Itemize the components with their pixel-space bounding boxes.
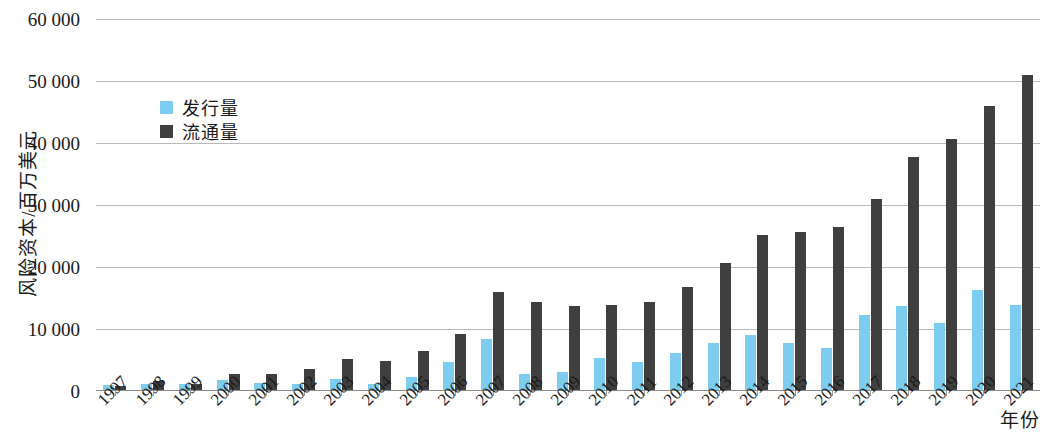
bar-group: [323, 19, 361, 391]
x-axis-label-cell: 2011: [625, 392, 663, 437]
bar-group: [511, 19, 549, 391]
bar-group: [738, 19, 776, 391]
x-axis-label-cell: 2016: [814, 392, 852, 437]
x-axis-label-cell: 1998: [134, 392, 172, 437]
bar-group: [587, 19, 625, 391]
x-axis-label-cell: 2005: [398, 392, 436, 437]
x-axis-tick-labels: 1997199819992000200120022003200420052006…: [96, 392, 1040, 437]
x-axis-label-cell: 2003: [323, 392, 361, 437]
bar-group: [398, 19, 436, 391]
x-axis-label-cell: 2008: [511, 392, 549, 437]
bar-group: [285, 19, 323, 391]
bar-group: [436, 19, 474, 391]
bar-group: [889, 19, 927, 391]
x-axis-label-cell: 2002: [285, 392, 323, 437]
chart-legend: 发行量流通量: [160, 96, 239, 144]
bar-circulation: [908, 157, 919, 391]
legend-label: 发行量: [182, 94, 239, 120]
y-axis-tick-label: 10 000: [28, 320, 80, 339]
bar-group: [360, 19, 398, 391]
y-axis-tick-label: 20 000: [28, 258, 80, 277]
bar-group: [172, 19, 210, 391]
x-axis-label-cell: 2004: [360, 392, 398, 437]
x-axis-label-cell: 2001: [247, 392, 285, 437]
bar-group: [662, 19, 700, 391]
bar-group: [965, 19, 1003, 391]
legend-swatch-icon: [160, 125, 173, 138]
x-axis-label-cell: 2013: [700, 392, 738, 437]
legend-label: 流通量: [182, 118, 239, 144]
bar-group: [814, 19, 852, 391]
bar-circulation: [833, 227, 844, 391]
bar-circulation: [871, 199, 882, 391]
bar-circulation: [946, 139, 957, 391]
y-axis-tick-label: 30 000: [28, 196, 80, 215]
bar-group: [700, 19, 738, 391]
x-axis-label-cell: 2017: [851, 392, 889, 437]
venture-capital-bar-chart: 风险资本/百万美元 60 00050 00040 00030 00020 000…: [0, 0, 1061, 437]
bar-group: [134, 19, 172, 391]
bar-group: [776, 19, 814, 391]
x-axis-label-cell: 1997: [96, 392, 134, 437]
plot-area: [96, 19, 1040, 391]
x-axis-label-cell: 2018: [889, 392, 927, 437]
x-axis-label-cell: 2019: [927, 392, 965, 437]
x-axis-label-cell: 2006: [436, 392, 474, 437]
y-axis-tick-label: 50 000: [28, 72, 80, 91]
bar-group: [927, 19, 965, 391]
bar-group: [851, 19, 889, 391]
x-axis-label-cell: 2015: [776, 392, 814, 437]
bar-group: [1002, 19, 1040, 391]
x-axis-label-cell: 2010: [587, 392, 625, 437]
y-axis-tick-label: 0: [71, 382, 81, 401]
bar-circulation: [795, 232, 806, 391]
bar-group: [247, 19, 285, 391]
bar-groups: [96, 19, 1040, 391]
y-axis-tick-label: 40 000: [28, 134, 80, 153]
x-axis-title: 年份: [1000, 405, 1040, 432]
y-axis-tick-labels: 60 00050 00040 00030 00020 00010 0000: [0, 0, 90, 437]
x-axis-label-cell: 2020: [965, 392, 1003, 437]
bar-group: [209, 19, 247, 391]
legend-item-issue[interactable]: 发行量: [160, 96, 239, 118]
bar-group: [96, 19, 134, 391]
x-axis-label-cell: 2014: [738, 392, 776, 437]
x-axis-label-cell: 2007: [474, 392, 512, 437]
x-axis-label-cell: 1999: [172, 392, 210, 437]
legend-item-circ[interactable]: 流通量: [160, 120, 239, 142]
x-axis-label-cell: 2009: [549, 392, 587, 437]
bar-circulation: [757, 235, 768, 391]
x-axis-label-cell: 2000: [209, 392, 247, 437]
bar-circulation: [1022, 75, 1033, 391]
legend-swatch-icon: [160, 101, 173, 114]
bar-group: [474, 19, 512, 391]
bar-circulation: [984, 106, 995, 391]
x-axis-label-cell: 2012: [662, 392, 700, 437]
bar-group: [549, 19, 587, 391]
y-axis-tick-label: 60 000: [28, 10, 80, 29]
bar-group: [625, 19, 663, 391]
